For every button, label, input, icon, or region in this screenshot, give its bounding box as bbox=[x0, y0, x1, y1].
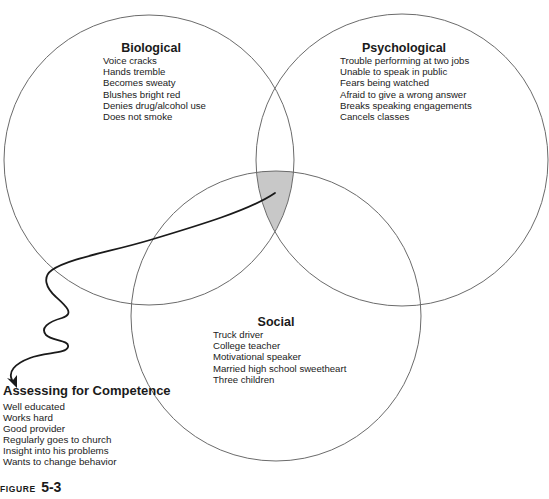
list-item: Does not smoke bbox=[103, 111, 206, 122]
list-item: Motivational speaker bbox=[213, 351, 346, 362]
list-item: Voice cracks bbox=[103, 55, 206, 66]
list-item: Insight into his problems bbox=[3, 445, 116, 456]
list-item: Truck driver bbox=[213, 329, 346, 340]
list-item: Good provider bbox=[3, 423, 116, 434]
list-item: Breaks speaking engagements bbox=[340, 100, 472, 111]
list-item: Works hard bbox=[3, 412, 116, 423]
psychological-title: Psychological bbox=[362, 41, 442, 55]
list-item: Blushes bright red bbox=[103, 89, 206, 100]
list-item: Wants to change behavior bbox=[3, 456, 116, 467]
competence-title: Assessing for Competence bbox=[3, 384, 171, 398]
list-item: Fears being watched bbox=[340, 77, 472, 88]
figure-number: 5-3 bbox=[41, 479, 61, 495]
list-item: Unable to speak in public bbox=[340, 66, 472, 77]
list-item: Trouble performing at two jobs bbox=[340, 55, 472, 66]
list-item: Becomes sweaty bbox=[103, 77, 206, 88]
social-list: Truck driver College teacher Motivationa… bbox=[213, 329, 346, 385]
figure-caption: FIGURE 5-3 bbox=[0, 478, 61, 496]
figure-label: FIGURE bbox=[0, 484, 36, 494]
list-item: Afraid to give a wrong answer bbox=[340, 89, 472, 100]
biological-title: Biological bbox=[120, 41, 182, 55]
list-item: Three children bbox=[213, 374, 346, 385]
list-item: Regularly goes to church bbox=[3, 434, 116, 445]
social-title: Social bbox=[256, 315, 296, 329]
psychological-list: Trouble performing at two jobs Unable to… bbox=[340, 55, 472, 122]
list-item: Cancels classes bbox=[340, 111, 472, 122]
list-item: Denies drug/alcohol use bbox=[103, 100, 206, 111]
competence-list: Well educated Works hard Good provider R… bbox=[3, 401, 116, 467]
list-item: Well educated bbox=[3, 401, 116, 412]
list-item: College teacher bbox=[213, 340, 346, 351]
list-item: Married high school sweetheart bbox=[213, 363, 346, 374]
list-item: Hands tremble bbox=[103, 66, 206, 77]
biological-list: Voice cracks Hands tremble Becomes sweat… bbox=[103, 55, 206, 122]
